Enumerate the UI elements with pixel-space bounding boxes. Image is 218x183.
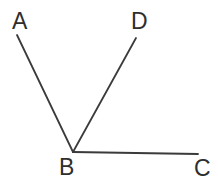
point-label-d: D — [131, 10, 148, 33]
figure-canvas — [0, 0, 218, 183]
segment-BC — [73, 152, 198, 154]
point-label-c: C — [194, 157, 211, 180]
geometry-figure: A D B C — [0, 0, 218, 183]
point-label-b: B — [59, 156, 74, 179]
segment-BA — [17, 35, 73, 152]
point-label-a: A — [12, 10, 27, 33]
segment-BD — [73, 38, 136, 152]
